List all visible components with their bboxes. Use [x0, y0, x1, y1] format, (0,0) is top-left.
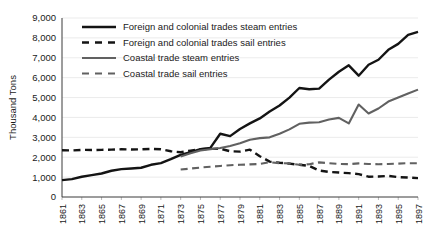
- x-tick-label: 1883: [275, 204, 285, 224]
- x-tick-label: 1873: [176, 204, 186, 224]
- legend-label-2: Foreign and colonial trades sail entries: [123, 37, 286, 48]
- y-tick-label: 6,000: [32, 72, 56, 83]
- y-axis-ticks: 01,0002,0003,0004,0005,0006,0007,0008,00…: [32, 12, 56, 202]
- x-tick-label: 1877: [216, 204, 226, 224]
- y-tick-label: 8,000: [32, 32, 56, 43]
- x-tick-label: 1885: [295, 204, 305, 224]
- x-axis-ticks: 1861186318651867186918711873187518771879…: [58, 197, 424, 224]
- y-axis-label: Thousand Tons: [7, 75, 18, 140]
- x-tick-label: 1887: [315, 204, 325, 224]
- x-tick-label: 1879: [236, 204, 246, 224]
- chart-legend: Foreign and colonial trades steam entrie…: [82, 21, 298, 79]
- x-tick-label: 1895: [394, 204, 404, 224]
- x-tick-label: 1869: [137, 204, 147, 224]
- x-tick-label: 1889: [334, 204, 344, 224]
- legend-label-4: Coastal trade sail entries: [123, 68, 228, 79]
- series-line-3: [181, 90, 418, 157]
- x-tick-label: 1861: [58, 204, 68, 224]
- y-tick-label: 0: [51, 191, 56, 202]
- x-tick-label: 1891: [354, 204, 364, 224]
- line-chart: 01,0002,0003,0004,0005,0006,0007,0008,00…: [0, 0, 424, 249]
- x-tick-label: 1897: [414, 204, 424, 224]
- y-tick-label: 3,000: [32, 132, 56, 143]
- y-tick-label: 5,000: [32, 92, 56, 103]
- legend-label-3: Coastal trade steam entries: [123, 52, 239, 63]
- y-tick-label: 1,000: [32, 172, 56, 183]
- x-tick-label: 1863: [77, 204, 87, 224]
- y-tick-label: 7,000: [32, 52, 56, 63]
- x-tick-label: 1881: [255, 204, 265, 224]
- legend-label-1: Foreign and colonial trades steam entrie…: [123, 21, 298, 32]
- series-line-1: [62, 32, 418, 180]
- x-tick-label: 1865: [97, 204, 107, 224]
- y-tick-label: 2,000: [32, 152, 56, 163]
- x-tick-label: 1893: [374, 204, 384, 224]
- y-tick-label: 4,000: [32, 112, 56, 123]
- x-tick-label: 1871: [156, 204, 166, 224]
- x-tick-label: 1867: [117, 204, 127, 224]
- y-tick-label: 9,000: [32, 12, 56, 23]
- x-tick-label: 1875: [196, 204, 206, 224]
- series-lines: [62, 32, 418, 180]
